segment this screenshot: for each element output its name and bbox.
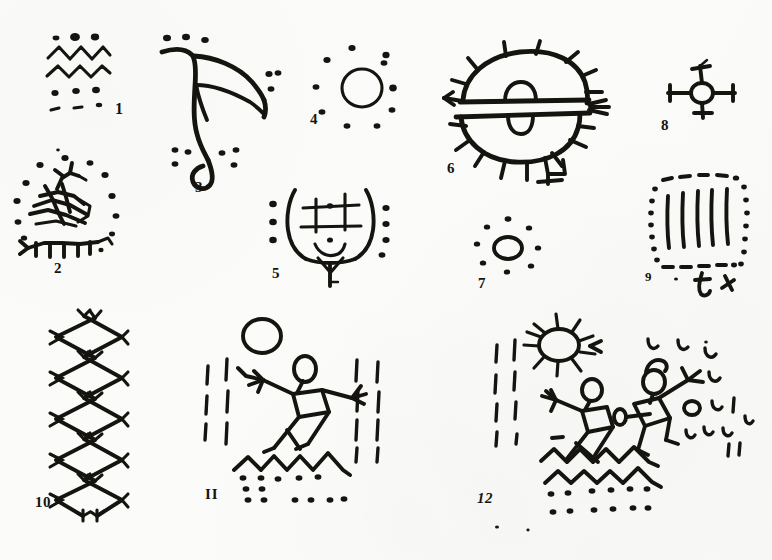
- figure-8-artwork: [668, 60, 735, 118]
- figure-label-12: 12: [477, 491, 493, 506]
- figure-label-6: 6: [447, 161, 455, 176]
- figure-label-4: 4: [310, 112, 318, 127]
- figure-6-artwork: [444, 41, 609, 184]
- figure-4-artwork: [313, 45, 396, 129]
- figure-1-artwork: [47, 34, 110, 110]
- figure-label-10: 10: [35, 495, 51, 510]
- figure-11-artwork: [205, 319, 379, 503]
- figure-label-7: 7: [478, 276, 486, 291]
- figure-plate: .ink { stroke: #15140f; fill: none; stro…: [0, 0, 772, 560]
- figure-label-11: II: [205, 487, 219, 502]
- figure-9-artwork: [648, 175, 750, 295]
- figure-7-artwork: [474, 216, 541, 274]
- figure-3-artwork: [162, 34, 281, 189]
- figure-label-2: 2: [54, 261, 62, 276]
- figure-5-artwork: [269, 190, 389, 286]
- figure-label-1: 1: [115, 101, 124, 117]
- figure-label-5: 5: [272, 266, 280, 281]
- plate-artwork: .ink { stroke: #15140f; fill: none; stro…: [0, 0, 772, 560]
- figure-10-artwork: [50, 310, 128, 521]
- figure-label-9: 9: [645, 270, 652, 283]
- figure-2-artwork: [13, 149, 119, 257]
- figure-label-3: 3: [195, 180, 203, 195]
- figure-label-8: 8: [661, 118, 669, 133]
- figure-12-artwork: [495, 314, 753, 531]
